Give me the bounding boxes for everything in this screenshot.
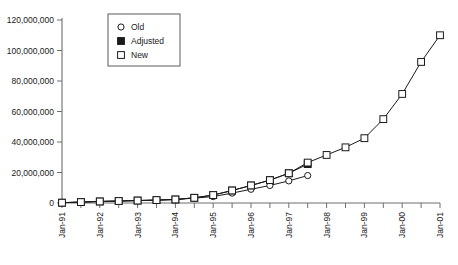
data-point-open-square xyxy=(437,32,444,39)
x-tick-label: Jan-99 xyxy=(359,212,369,238)
data-point-open-circle xyxy=(305,172,311,178)
y-tick-label: 120,000,000 xyxy=(7,15,55,25)
x-tick-label: Jan-92 xyxy=(95,212,105,238)
data-point-open-square xyxy=(399,91,406,98)
data-point-open-square xyxy=(134,197,141,204)
legend-marker-open-circle xyxy=(118,24,124,30)
data-point-open-square xyxy=(78,199,85,206)
data-point-open-square xyxy=(115,198,122,205)
chart-canvas: 020,000,00040,000,00060,000,00080,000,00… xyxy=(0,0,458,265)
line-chart: 020,000,00040,000,00060,000,00080,000,00… xyxy=(0,0,458,265)
y-axis: 020,000,00040,000,00060,000,00080,000,00… xyxy=(7,15,62,208)
y-tick-label: 20,000,000 xyxy=(11,168,54,178)
data-point-open-square xyxy=(304,159,311,166)
x-tick-label: Jan-97 xyxy=(284,212,294,238)
legend-label-new: New xyxy=(131,50,149,60)
data-point-open-square xyxy=(342,144,349,151)
data-point-open-square xyxy=(59,199,66,206)
data-point-open-square xyxy=(191,194,198,201)
data-point-open-square xyxy=(380,116,387,123)
data-point-open-square xyxy=(361,135,368,142)
legend-marker-open-square xyxy=(118,52,125,59)
data-point-open-square xyxy=(323,152,330,159)
data-point-open-square xyxy=(285,170,292,177)
data-point-open-circle xyxy=(286,178,292,184)
legend-label-old: Old xyxy=(131,22,145,32)
x-tick-label: Jan-93 xyxy=(133,212,143,238)
y-tick-label: 60,000,000 xyxy=(11,107,54,117)
data-point-open-square xyxy=(96,198,103,205)
data-point-open-square xyxy=(172,196,179,203)
data-point-open-square xyxy=(229,187,236,194)
x-tick-label: Jan-94 xyxy=(170,212,180,238)
data-point-open-square xyxy=(418,59,425,66)
x-axis: Jan-91Jan-92Jan-93Jan-94Jan-95Jan-96Jan-… xyxy=(57,203,445,238)
x-tick-label: Jan-91 xyxy=(57,212,67,238)
y-tick-label: 80,000,000 xyxy=(11,76,54,86)
data-point-open-square xyxy=(210,192,217,199)
chart-legend: OldAdjustedNew xyxy=(108,14,180,66)
x-tick-label: Jan-98 xyxy=(322,212,332,238)
data-point-open-square xyxy=(248,182,255,189)
x-tick-label: Jan-96 xyxy=(246,212,256,238)
x-tick-label: Jan-00 xyxy=(397,212,407,238)
x-tick-label: Jan-01 xyxy=(435,212,445,238)
y-tick-label: 100,000,000 xyxy=(7,46,55,56)
y-tick-label: 40,000,000 xyxy=(11,137,54,147)
y-tick-label: 0 xyxy=(49,198,54,208)
data-point-open-square xyxy=(267,177,274,184)
legend-label-adjusted: Adjusted xyxy=(131,36,164,46)
legend-marker-filled-square xyxy=(118,38,125,45)
data-point-open-square xyxy=(153,197,160,204)
x-tick-label: Jan-95 xyxy=(208,212,218,238)
